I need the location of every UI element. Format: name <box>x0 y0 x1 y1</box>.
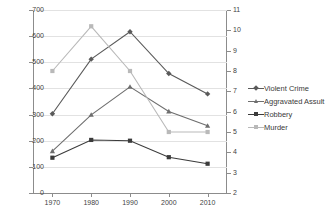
data-point <box>127 84 132 89</box>
series-aggravated-assult <box>50 84 210 153</box>
data-point <box>167 130 171 134</box>
series-robbery <box>50 138 209 166</box>
legend-marker-icon <box>248 109 264 120</box>
legend-marker-icon <box>248 122 264 133</box>
data-point <box>128 139 132 143</box>
legend-item-label: Murder <box>264 123 288 132</box>
legend-item-violent-crime[interactable]: Violent Crime <box>248 83 324 94</box>
chart-legend: Violent CrimeAggravated AssultRobberyMur… <box>248 83 324 135</box>
legend-item-murder[interactable]: Murder <box>248 122 324 133</box>
data-point <box>128 69 132 73</box>
line-chart: 0100200300400500600700 234567891011 1970… <box>0 0 329 221</box>
data-point <box>167 155 171 159</box>
data-point <box>166 109 171 114</box>
data-point <box>205 91 210 96</box>
legend-item-label: Aggravated Assult <box>264 97 324 106</box>
data-point <box>89 24 93 28</box>
data-point <box>50 69 54 73</box>
data-point <box>50 156 54 160</box>
data-point <box>206 130 210 134</box>
series-line <box>52 140 207 164</box>
legend-item-label: Robbery <box>264 110 292 119</box>
legend-item-aggravated-assult[interactable]: Aggravated Assult <box>248 96 324 107</box>
legend-marker-icon <box>248 83 264 94</box>
data-point <box>206 162 210 166</box>
legend-item-robbery[interactable]: Robbery <box>248 109 324 120</box>
legend-item-label: Violent Crime <box>264 84 309 93</box>
legend-marker-icon <box>248 96 264 107</box>
series-line <box>52 26 207 132</box>
data-point <box>89 138 93 142</box>
